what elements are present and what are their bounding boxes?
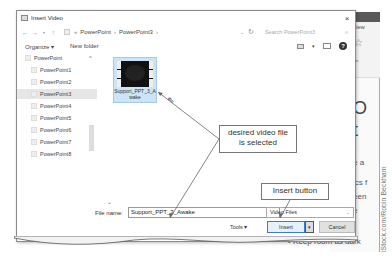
nav-item-powerpoint4[interactable]: PowerPoint4 [17,101,97,111]
nav-item-powerpoint6[interactable]: PowerPoint6 [17,125,97,135]
folder-icon [31,91,37,97]
chevron-down-icon: ⌄ [346,208,350,217]
preview-pane-icon[interactable] [323,43,331,49]
breadcrumb-powerpoint3[interactable]: PowerPoint3 [119,29,153,35]
address-bar[interactable]: « PowerPoint › PowerPoint3 › ⌄ ↻ [64,27,254,38]
up-arrow-icon[interactable]: ↑ [49,29,58,36]
help-icon[interactable]: ? [339,42,347,50]
callout-insert-button: Insert button [261,183,329,200]
nav-scrollbar[interactable] [89,125,94,151]
search-icon: ⌕ [345,29,348,36]
forward-arrow-icon[interactable]: → [30,29,39,36]
file-item-support-ppt-3-awake[interactable]: Support_PPT_3_A wake [113,57,157,103]
file-type-select[interactable]: Video Files ⌄ [266,207,354,218]
folder-icon [31,139,37,145]
dialog-title: Insert Video [31,15,63,21]
new-folder-button[interactable]: New folder [70,43,99,49]
folder-icon [64,29,70,35]
address-row: ← → ▾ ↑ « PowerPoint › PowerPoint3 › ⌄ ↻… [17,25,355,39]
folder-icon [31,67,37,73]
search-input[interactable]: Search PowerPoint3 [265,29,315,35]
title-bar: Insert Video × [17,11,355,25]
folder-icon [31,151,37,157]
file-name-input[interactable]: Support_PPT_3_Awake [128,207,280,218]
nav-item-powerpoint5[interactable]: PowerPoint5 [17,113,97,123]
address-dropdown-icon[interactable]: ⌄ [240,29,244,35]
callout-selected-file: desired video file is selected [219,125,297,153]
insert-button[interactable]: Insert [267,221,305,233]
tools-button[interactable]: Tools ▾ [230,224,247,230]
organize-button[interactable]: Organize ▾ [25,43,54,50]
recent-dropdown-icon[interactable]: ▾ [39,30,48,35]
torn-edge-decoration [14,236,358,250]
nav-item-powerpoint7[interactable]: PowerPoint7 [17,137,97,147]
close-button[interactable]: × [339,14,355,23]
nav-item-powerpoint3[interactable]: PowerPoint3 [17,89,97,99]
cancel-button[interactable]: Cancel [319,221,355,233]
back-arrow-icon[interactable]: ← [21,29,30,36]
toolbar: Organize ▾ New folder ▾ ? [17,39,355,53]
folder-icon [25,55,31,61]
dialog-body: ^ PowerPoint PowerPoint1 PowerPoint2 Pow… [17,53,357,203]
nav-item-powerpoint8[interactable]: PowerPoint8 [17,149,97,159]
nav-item-powerpoint[interactable]: PowerPoint [17,53,97,63]
dialog-icon [21,15,28,21]
navigation-pane: ^ PowerPoint PowerPoint1 PowerPoint2 Pow… [17,53,97,203]
folder-icon [31,103,37,109]
video-thumbnail-icon [117,61,153,87]
search-box[interactable]: Search PowerPoint3 ⌕ [262,27,351,38]
nav-item-powerpoint1[interactable]: PowerPoint1 [17,65,97,75]
insert-video-dialog: Insert Video × ← → ▾ ↑ « PowerPoint › Po… [16,10,356,242]
mouse-pointer-icon: ⇖ [167,95,175,105]
view-dropdown-icon[interactable]: ▾ [312,43,315,49]
file-name-label: File name: [95,210,123,216]
insert-dropdown-button[interactable]: ▾ [305,221,314,233]
nav-item-powerpoint2[interactable]: PowerPoint2 [17,77,97,87]
photo-credit: iStock.com/Robin Beckham [380,166,387,252]
folder-icon [31,79,37,85]
folder-icon [31,115,37,121]
change-view-icon[interactable] [297,44,304,49]
breadcrumb-powerpoint[interactable]: PowerPoint [80,29,111,35]
folder-icon [31,127,37,133]
file-name-label: Support_PPT_3_A wake [114,88,156,100]
refresh-icon[interactable]: ↻ [248,28,254,36]
